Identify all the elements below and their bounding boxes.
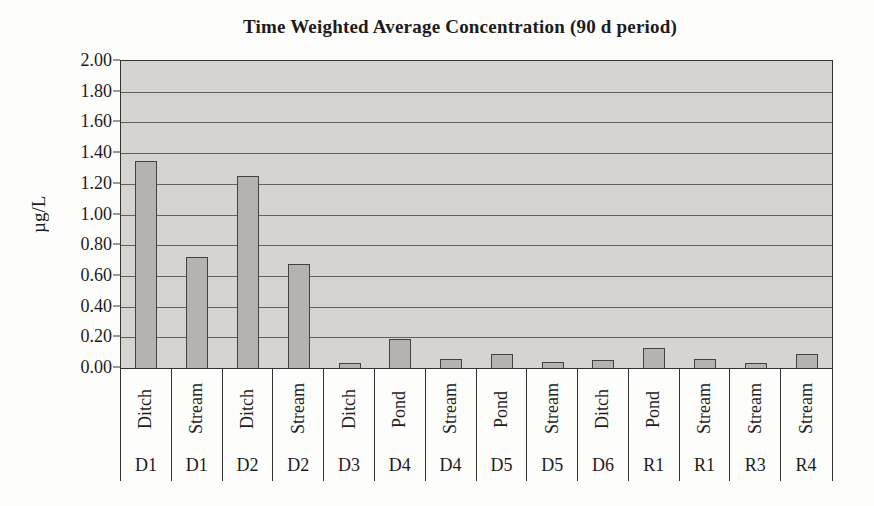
x-category-d5-pond: PondD5: [476, 369, 527, 481]
x-label-site-code: D4: [440, 455, 462, 475]
y-tick-label: 0.40: [0, 297, 112, 315]
x-label-site-type: Stream: [796, 369, 817, 451]
x-label-site-code: R4: [796, 455, 817, 475]
x-label-site-type: Stream: [288, 369, 309, 451]
bar-d4-pond: [389, 339, 411, 368]
y-axis: 2.001.801.601.401.201.000.800.600.400.20…: [0, 60, 112, 367]
x-label-site-code: D5: [541, 455, 563, 475]
y-tick-mark: [113, 182, 120, 183]
x-category-d2-ditch: DitchD2: [222, 369, 273, 481]
gridline: [121, 245, 832, 246]
y-tick-mark: [113, 60, 120, 61]
x-axis: DitchD1StreamD1DitchD2StreamD2DitchD3Pon…: [120, 369, 833, 481]
y-tick-label: 1.80: [0, 82, 112, 100]
x-category-d6-ditch: DitchD6: [577, 369, 628, 481]
x-category-d1-stream: StreamD1: [171, 369, 222, 481]
x-category-r3-stream: StreamR3: [729, 369, 780, 481]
bar-d1-ditch: [135, 161, 157, 368]
y-tick-label: 1.60: [0, 112, 112, 130]
y-tick-label: 1.40: [0, 143, 112, 161]
bar-d5-pond: [491, 354, 513, 368]
y-tick-mark: [113, 244, 120, 245]
bar-r3-stream: [745, 363, 767, 368]
x-category-r1-stream: StreamR1: [679, 369, 730, 481]
y-tick-label: 1.20: [0, 174, 112, 192]
bar-d3-ditch: [339, 363, 361, 368]
y-tick-mark: [113, 274, 120, 275]
x-label-site-type: Ditch: [592, 369, 613, 451]
gridline: [121, 122, 832, 123]
bar-d5-stream: [542, 362, 564, 368]
y-tick-label: 0.80: [0, 235, 112, 253]
bar-d4-stream: [440, 359, 462, 368]
x-label-site-type: Stream: [542, 369, 563, 451]
gridline: [121, 215, 832, 216]
gridline: [121, 153, 832, 154]
x-label-site-type: Stream: [440, 369, 461, 451]
bar-d2-stream: [288, 264, 310, 368]
bar-d1-stream: [186, 257, 208, 368]
x-category-d5-stream: StreamD5: [526, 369, 577, 481]
x-category-d2-stream: StreamD2: [272, 369, 323, 481]
y-tick-label: 1.00: [0, 205, 112, 223]
x-label-site-type: Ditch: [135, 369, 156, 451]
x-label-site-code: D2: [287, 455, 309, 475]
y-tick-label: 2.00: [0, 51, 112, 69]
y-tick-mark: [113, 152, 120, 153]
gridline: [121, 307, 832, 308]
x-label-site-type: Pond: [643, 369, 664, 451]
x-category-r1-pond: PondR1: [628, 369, 679, 481]
x-label-site-type: Stream: [186, 369, 207, 451]
x-category-r4-stream: StreamR4: [780, 369, 831, 481]
x-label-site-type: Pond: [389, 369, 410, 451]
x-label-site-code: R3: [745, 455, 766, 475]
x-label-site-code: D3: [338, 455, 360, 475]
chart-figure: Time Weighted Average Concentration (90 …: [0, 0, 874, 506]
x-category-d3-ditch: DitchD3: [323, 369, 374, 481]
y-tick-label: 0.00: [0, 358, 112, 376]
x-label-site-type: Stream: [694, 369, 715, 451]
gridline: [121, 92, 832, 93]
x-category-d4-stream: StreamD4: [425, 369, 476, 481]
x-label-site-type: Ditch: [237, 369, 258, 451]
x-label-site-code: D6: [592, 455, 614, 475]
bar-d2-ditch: [237, 176, 259, 368]
x-label-site-code: D4: [389, 455, 411, 475]
y-tick-mark: [113, 305, 120, 306]
bar-r1-pond: [643, 348, 665, 368]
plot-area: [120, 60, 833, 369]
y-tick-label: 0.60: [0, 266, 112, 284]
gridline: [121, 337, 832, 338]
gridline: [121, 184, 832, 185]
bar-r1-stream: [694, 359, 716, 368]
y-tick-mark: [113, 367, 120, 368]
y-tick-mark: [113, 213, 120, 214]
x-label-site-type: Ditch: [339, 369, 360, 451]
gridline: [121, 276, 832, 277]
chart-title: Time Weighted Average Concentration (90 …: [60, 16, 860, 38]
x-label-site-type: Stream: [745, 369, 766, 451]
y-tick-label: 0.20: [0, 327, 112, 345]
bar-d6-ditch: [592, 360, 614, 368]
x-label-site-code: R1: [694, 455, 715, 475]
bar-r4-stream: [796, 354, 818, 368]
x-category-d4-pond: PondD4: [374, 369, 425, 481]
x-label-site-code: R1: [643, 455, 664, 475]
y-tick-mark: [113, 121, 120, 122]
y-tick-mark: [113, 336, 120, 337]
x-category-d1-ditch: DitchD1: [120, 369, 171, 481]
y-tick-mark: [113, 90, 120, 91]
x-label-site-type: Pond: [491, 369, 512, 451]
x-label-site-code: D1: [135, 455, 157, 475]
x-label-site-code: D5: [490, 455, 512, 475]
x-label-site-code: D1: [186, 455, 208, 475]
x-label-site-code: D2: [236, 455, 258, 475]
